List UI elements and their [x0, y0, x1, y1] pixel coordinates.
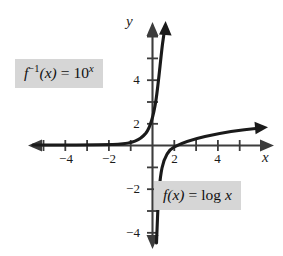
inverse-rhs-base: 10: [73, 64, 89, 81]
x-tick-label-2: 2: [168, 152, 181, 165]
y-tick-label-neg2: −2: [123, 182, 143, 195]
function-label-log: f(x)=log x: [154, 181, 241, 210]
inverse-exponent: −1: [28, 63, 39, 74]
graph-figure: y x −4 −2 2 4 4 2 −2 −4 f−1(x)=10x f(x)=…: [0, 0, 283, 256]
log-argument: (x): [167, 186, 184, 203]
function-label-inverse: f−1(x)=10x: [15, 59, 103, 88]
inverse-rhs-exponent: x: [89, 63, 94, 74]
y-tick-label-neg4: −4: [123, 226, 143, 239]
inverse-argument: (x): [40, 64, 57, 81]
x-tick-label-neg4: −4: [56, 152, 76, 165]
y-axis-top-arrowhead: [147, 22, 159, 36]
x-tick-label-neg2: −2: [99, 152, 119, 165]
x-tick-label-4: 4: [211, 152, 224, 165]
curve-exponential: [33, 30, 165, 145]
curve-logarithmic-arrowhead: [255, 122, 269, 134]
y-axis-label: y: [126, 14, 133, 29]
log-equals-sign: =: [189, 186, 198, 203]
y-tick-label-4: 4: [130, 73, 143, 86]
y-tick-label-2: 2: [130, 117, 143, 130]
log-rhs-variable: x: [225, 186, 232, 203]
inverse-equals-sign: =: [61, 64, 70, 81]
log-rhs-operator: log: [201, 186, 221, 203]
x-axis-label: x: [262, 150, 269, 165]
curve-exponential-arrowhead: [159, 21, 172, 35]
